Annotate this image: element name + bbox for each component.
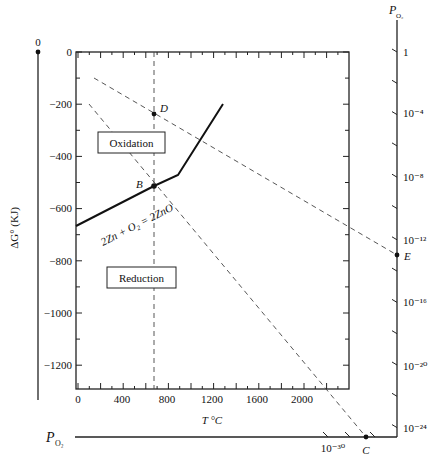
x-axis-ticks <box>78 52 338 389</box>
diagram-canvas: 0 ΔG° (KJ) 0 −200 −400 −600 −800 −1000 −… <box>0 0 440 462</box>
y-tick-label: −800 <box>49 255 72 267</box>
svg-text:B: B <box>136 178 143 190</box>
reduction-label: Reduction <box>119 272 165 284</box>
x-tick-label: 1600 <box>246 393 269 405</box>
left-scale-zero: 0 <box>35 36 41 48</box>
y-tick-label: −600 <box>49 202 72 214</box>
right-tick-label: 10⁻¹⁶ <box>403 296 427 308</box>
bottom-po2-axis: P O₂ 10⁻³⁰ <box>45 430 397 454</box>
right-tick-label: 1 <box>403 46 409 58</box>
oxidation-label: Oxidation <box>110 137 154 149</box>
reduction-region-box: Reduction <box>107 267 176 288</box>
right-tick-label: 10⁻²⁰ <box>403 360 428 372</box>
y-tick-label: 0 <box>67 46 73 58</box>
point-c: C <box>362 435 370 456</box>
x-tick-label: 2000 <box>291 393 314 405</box>
y-axis-ticks <box>76 52 349 365</box>
y-tick-label: −1200 <box>44 359 73 371</box>
right-tick-label: 10⁻¹² <box>403 234 427 246</box>
x-axis-tick-labels: 0 400 800 1200 1600 2000 <box>75 393 313 405</box>
zn-zno-free-energy-curve <box>76 104 223 226</box>
x-axis-label: T °C <box>202 414 223 426</box>
svg-text:O₂: O₂ <box>55 439 64 448</box>
svg-text:O₂: O₂ <box>396 12 404 20</box>
y-tick-label: −400 <box>49 150 72 162</box>
x-tick-label: 1200 <box>201 393 224 405</box>
y-tick-label: −200 <box>49 98 72 110</box>
bottom-po2-tick-label: 10⁻³⁰ <box>321 442 346 454</box>
x-tick-label: 0 <box>75 393 81 405</box>
y-axis-label: ΔG° (KJ) <box>8 207 21 249</box>
x-tick-label: 400 <box>114 393 131 405</box>
left-dg-scale: 0 ΔG° (KJ) <box>8 36 41 400</box>
svg-text:C: C <box>362 444 370 456</box>
left-scale-origin-dot <box>36 50 41 55</box>
svg-text:P: P <box>45 430 55 445</box>
y-tick-label: −1000 <box>44 307 73 319</box>
svg-text:E: E <box>403 250 411 262</box>
oxidation-region-box: Oxidation <box>98 132 165 153</box>
right-tick-label: 10⁻⁸ <box>403 171 424 183</box>
right-tick-label: 10⁻²⁴ <box>403 422 427 434</box>
x-tick-label: 800 <box>159 393 176 405</box>
right-tick-label: 10⁻⁴ <box>403 107 424 119</box>
right-po2-axis: P O₂ 1 10⁻⁴ 10⁻⁸ 10⁻¹² 10⁻¹⁶ 10⁻²⁰ 10⁻²⁴ <box>388 3 428 437</box>
y-axis-tick-labels: 0 −200 −400 −600 −800 −1000 −1200 <box>44 46 73 371</box>
plot-frame <box>76 52 349 389</box>
svg-text:D: D <box>159 102 168 114</box>
ellingham-diagram: 0 ΔG° (KJ) 0 −200 −400 −600 −800 −1000 −… <box>0 0 440 462</box>
